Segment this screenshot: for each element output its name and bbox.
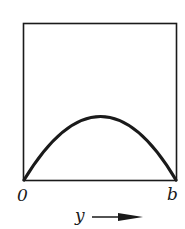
arrow-head-icon — [118, 213, 143, 221]
plot-box — [24, 24, 177, 181]
arch-curve — [24, 117, 176, 181]
origin-label: 0 — [17, 187, 28, 204]
end-label: b — [167, 186, 178, 203]
axis-label: y — [75, 207, 85, 224]
